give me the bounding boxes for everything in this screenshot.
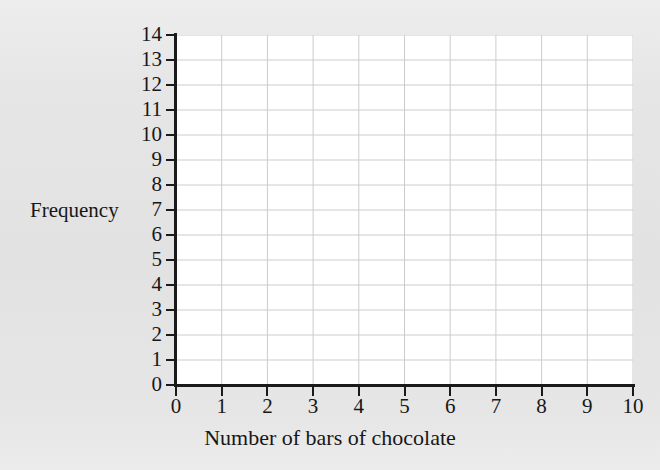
x-tick-label-7: 7 — [476, 394, 516, 418]
y-tick-label-8: 8 — [116, 174, 162, 195]
y-tick-12 — [166, 84, 175, 86]
y-tick-1 — [166, 359, 175, 361]
x-tick-label-0: 0 — [156, 394, 196, 418]
y-tick-8 — [166, 184, 175, 186]
x-tick-label-6: 6 — [430, 394, 470, 418]
y-tick-label-9: 9 — [116, 149, 162, 170]
x-tick-label-3: 3 — [293, 394, 333, 418]
x-tick-label-1: 1 — [202, 394, 242, 418]
y-tick-label-3: 3 — [116, 299, 162, 320]
y-tick-7 — [166, 209, 175, 211]
y-tick-0 — [166, 384, 175, 386]
y-tick-11 — [166, 109, 175, 111]
y-tick-label-12: 12 — [116, 74, 162, 95]
y-tick-label-10: 10 — [116, 124, 162, 145]
y-tick-5 — [166, 259, 175, 261]
x-tick-label-4: 4 — [339, 394, 379, 418]
y-tick-label-4: 4 — [116, 274, 162, 295]
y-tick-label-5: 5 — [116, 249, 162, 270]
plot-area — [176, 35, 633, 385]
y-tick-14 — [166, 34, 175, 36]
y-tick-3 — [166, 309, 175, 311]
y-tick-10 — [166, 134, 175, 136]
x-tick-label-9: 9 — [567, 394, 607, 418]
grid-lines — [176, 35, 633, 385]
y-tick-label-13: 13 — [116, 49, 162, 70]
y-tick-label-14: 14 — [116, 24, 162, 45]
y-tick-label-0: 0 — [116, 374, 162, 395]
y-tick-label-11: 11 — [116, 99, 162, 120]
y-tick-label-2: 2 — [116, 324, 162, 345]
y-axis-title: Frequency — [30, 198, 140, 222]
y-tick-label-6: 6 — [116, 224, 162, 245]
x-axis-title: Number of bars of chocolate — [0, 425, 660, 451]
y-tick-label-1: 1 — [116, 349, 162, 370]
x-tick-label-2: 2 — [247, 394, 287, 418]
x-tick-label-5: 5 — [385, 394, 425, 418]
y-tick-9 — [166, 159, 175, 161]
y-tick-4 — [166, 284, 175, 286]
frequency-chart: 01234567891011121314 012345678910 Freque… — [0, 0, 660, 470]
y-tick-13 — [166, 59, 175, 61]
x-tick-label-10: 10 — [613, 394, 653, 418]
x-tick-label-8: 8 — [522, 394, 562, 418]
y-tick-2 — [166, 334, 175, 336]
y-tick-6 — [166, 234, 175, 236]
